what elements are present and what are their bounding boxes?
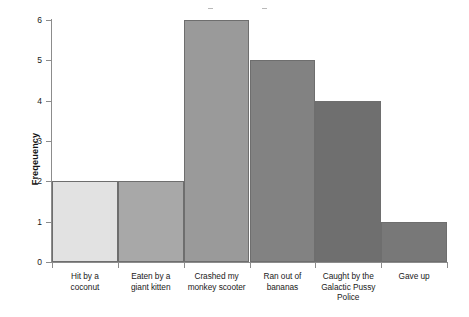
y-axis-tick-label: 0 [14, 258, 42, 267]
y-axis-tick [46, 20, 51, 21]
x-axis-category-label: Crashed mymonkey scooter [184, 271, 250, 292]
x-axis-tick [184, 263, 185, 268]
bar [250, 60, 316, 262]
y-axis-tick [46, 141, 51, 142]
bar [52, 181, 118, 262]
y-axis-tick [46, 101, 51, 102]
x-axis-category-label-line: Galactic Pussy [315, 282, 381, 293]
x-axis-category-label-line: Hit by a [52, 271, 118, 282]
y-axis-tick [46, 222, 51, 223]
y-axis-tick-label: 6 [14, 16, 42, 25]
x-axis-category-label: Gave up [381, 271, 447, 282]
x-axis-category-label: Caught by theGalactic PussyPolice [315, 271, 381, 303]
bar [118, 181, 184, 262]
x-axis-category-label-line: monkey scooter [184, 282, 250, 293]
x-axis-category-label-line: Eaten by a [118, 271, 184, 282]
x-axis-category-label-line: bananas [250, 282, 316, 293]
y-axis-tick-label: 5 [14, 56, 42, 65]
x-axis-category-label-line: giant kitten [118, 282, 184, 293]
top-artifact-mark-right [262, 8, 267, 9]
x-axis-category-label-line: Ran out of [250, 271, 316, 282]
y-axis-tick-label: 2 [14, 177, 42, 186]
x-axis-tick [250, 263, 251, 268]
bar [315, 101, 381, 262]
x-axis-category-label: Hit by acoconut [52, 271, 118, 292]
y-axis-tick [46, 181, 51, 182]
y-axis-tick-label: 3 [14, 137, 42, 146]
bar [184, 20, 250, 262]
x-axis-category-label: Ran out ofbananas [250, 271, 316, 292]
y-axis-tick [46, 60, 51, 61]
y-axis-tick [46, 262, 51, 263]
y-axis-tick-label: 4 [14, 97, 42, 106]
x-axis-category-label-line: Gave up [381, 271, 447, 282]
x-axis-category-label-line: coconut [52, 282, 118, 293]
x-axis-tick [315, 263, 316, 268]
x-axis-tick [52, 263, 53, 268]
x-axis-category-label-line: Crashed my [184, 271, 250, 282]
x-axis-category-label-line: Caught by the [315, 271, 381, 282]
top-artifact-mark-left [208, 8, 213, 9]
x-axis-tick [118, 263, 119, 268]
x-axis-tick [447, 263, 448, 268]
x-axis-category-label-line: Police [315, 292, 381, 303]
y-axis-tick-label: 1 [14, 218, 42, 227]
x-axis-category-label: Eaten by agiant kitten [118, 271, 184, 292]
x-axis-tick [381, 263, 382, 268]
bar [381, 222, 447, 262]
bar-chart: Freqeuency 6543210 Hit by acoconutEaten … [0, 0, 469, 317]
